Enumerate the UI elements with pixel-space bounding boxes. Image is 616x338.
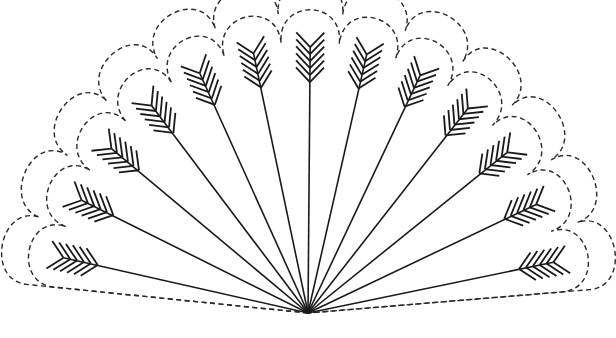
fletching-barb xyxy=(453,105,455,125)
fletching-barb xyxy=(553,262,570,273)
arrow-shaft xyxy=(63,258,308,313)
fletching-barb xyxy=(490,165,510,167)
arrow-shaft xyxy=(308,75,420,313)
fletching-barb xyxy=(165,102,167,122)
arrow xyxy=(63,181,308,313)
fletching-barb xyxy=(547,247,558,263)
fletching-barb xyxy=(507,132,510,152)
arrow xyxy=(181,54,308,313)
fletching-barb xyxy=(519,269,536,280)
fletching-barb xyxy=(547,264,564,275)
fletching-barb xyxy=(169,107,171,127)
arrow xyxy=(237,36,308,313)
fletching-barb xyxy=(310,47,324,61)
fletching-barb xyxy=(462,94,464,114)
fletching-barb xyxy=(59,242,70,259)
arrow xyxy=(308,186,555,313)
fletching-barb xyxy=(132,103,152,105)
arrow xyxy=(308,246,570,313)
fletching-barb xyxy=(136,150,139,170)
fletching-barb xyxy=(67,262,84,273)
fletching-barb xyxy=(310,68,324,82)
fletching-barb xyxy=(540,265,557,276)
fletching-barb xyxy=(258,57,269,74)
fletching-barb xyxy=(485,149,488,169)
fletching-barb xyxy=(310,40,324,54)
fletching-barb xyxy=(553,246,564,262)
fletching-barb xyxy=(136,109,156,111)
arrow-shaft xyxy=(308,262,553,313)
fletching-barb xyxy=(237,42,254,53)
fletching-barb xyxy=(181,66,200,73)
arrow-group xyxy=(46,32,570,313)
fletching-barb xyxy=(496,141,499,161)
fletching-barb xyxy=(114,133,117,153)
fletching-barb xyxy=(479,173,499,175)
fletching-barb xyxy=(131,146,134,166)
fletching-barb xyxy=(348,71,358,88)
fletching-barb xyxy=(490,145,493,165)
fletching-barb xyxy=(367,44,384,55)
fletching-barb xyxy=(355,44,365,61)
fletching-barb xyxy=(296,39,310,54)
fletching-barb xyxy=(81,265,98,276)
fletching-barb xyxy=(296,32,310,47)
fletching-barb xyxy=(533,266,550,277)
fletching-barb xyxy=(519,252,530,268)
fletching-barb xyxy=(120,137,123,157)
fletching-barb xyxy=(463,112,483,114)
fletching-barb xyxy=(255,43,266,60)
fletching-barb xyxy=(173,113,175,133)
fletching-barb xyxy=(466,88,468,108)
fletching-barb xyxy=(254,36,265,53)
arrow-shaft xyxy=(308,47,310,313)
fletching-barb xyxy=(102,157,122,159)
fletching-barb xyxy=(502,157,522,159)
fletching-barb xyxy=(257,50,268,67)
fletching-barb xyxy=(310,54,324,68)
arrow-fan-diagram xyxy=(0,0,616,338)
arrow xyxy=(296,32,324,313)
fletching-barb xyxy=(52,241,63,258)
fletching-barb xyxy=(356,37,366,54)
fletching-barb xyxy=(420,69,439,76)
fletching-barb xyxy=(365,51,382,62)
fletching-barb xyxy=(53,259,70,270)
fletching-barb xyxy=(457,99,459,119)
fletching-barb xyxy=(238,49,255,60)
fletching-barb xyxy=(352,58,362,75)
fletching-barb xyxy=(125,142,128,162)
fletching-barb xyxy=(108,162,128,164)
fletching-barb xyxy=(296,67,310,82)
fletching-barb xyxy=(485,169,505,171)
fletching-barb xyxy=(468,106,488,108)
fletching-barb xyxy=(350,64,360,81)
fletching-barb xyxy=(74,264,91,275)
arrow xyxy=(46,241,308,313)
fletching-barb xyxy=(536,186,543,205)
fletching-barb xyxy=(91,149,111,151)
fletching-barb xyxy=(448,110,450,130)
fletching-barb xyxy=(444,115,446,135)
arrow-shaft xyxy=(82,200,308,313)
fletching-barb xyxy=(261,70,272,87)
fletching-barb xyxy=(502,137,505,157)
fletching-barb xyxy=(156,91,158,111)
fletching-barb xyxy=(160,96,162,116)
arrow xyxy=(308,132,527,313)
fletching-barb xyxy=(97,153,117,155)
fletching-barb xyxy=(526,268,543,279)
fletching-barb xyxy=(496,161,516,163)
fletching-barb xyxy=(260,64,271,81)
fletching-barb xyxy=(296,53,310,68)
fletching-barb xyxy=(87,248,98,265)
arrow xyxy=(308,56,439,313)
fletching-barb xyxy=(109,129,112,149)
fletching-barb xyxy=(152,86,154,106)
fletching-barb xyxy=(507,152,527,154)
fletching-barb xyxy=(459,117,479,119)
fletching-barb xyxy=(296,46,310,61)
fletching-barb xyxy=(479,154,482,174)
fletching-barb xyxy=(113,166,133,168)
arrow-shaft xyxy=(200,73,308,313)
